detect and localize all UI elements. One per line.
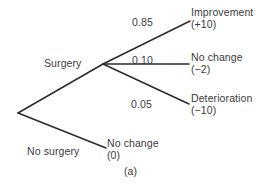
edge-root-to-no-surgery <box>18 113 106 148</box>
outcome-improvement: Improvement (+10) <box>191 7 253 30</box>
outcome-no-surgery-value: (0) <box>107 150 159 162</box>
branch-label-no-surgery: No surgery <box>27 146 79 158</box>
probability-no-change: 0.10 <box>132 55 153 67</box>
outcome-no-change-value: (−2) <box>191 64 243 76</box>
probability-deterioration: 0.05 <box>131 99 152 111</box>
outcome-deterioration-name: Deterioration <box>191 93 252 105</box>
outcome-deterioration-value: (−10) <box>191 105 252 117</box>
outcome-no-change: No change (−2) <box>191 52 243 75</box>
decision-tree-figure: Surgery No surgery 0.85 0.10 0.05 Improv… <box>0 0 278 190</box>
probability-improvement: 0.85 <box>132 17 153 29</box>
outcome-deterioration: Deterioration (−10) <box>191 93 252 116</box>
outcome-improvement-value: (+10) <box>191 19 253 31</box>
outcome-no-surgery: No change (0) <box>107 138 159 161</box>
figure-caption: (a) <box>124 166 137 178</box>
outcome-no-surgery-name: No change <box>107 138 159 150</box>
outcome-improvement-name: Improvement <box>191 7 253 19</box>
outcome-no-change-name: No change <box>191 52 243 64</box>
edge-root-to-surgery <box>18 64 103 113</box>
branch-label-surgery: Surgery <box>44 58 81 70</box>
